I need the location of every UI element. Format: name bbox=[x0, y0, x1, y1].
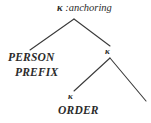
branch-mid-right bbox=[110, 58, 146, 101]
node-prefix: PREFIX bbox=[15, 67, 58, 79]
node-kappa-lower: κ bbox=[68, 92, 73, 101]
node-root-kappa-anchoring: κ :anchoring bbox=[57, 3, 112, 14]
node-person: PERSON bbox=[8, 52, 55, 64]
node-kappa-middle: κ bbox=[105, 47, 110, 56]
node-order: ORDER bbox=[58, 105, 99, 117]
branch-root-left bbox=[30, 19, 74, 50]
syntax-tree-figure: κ :anchoring PERSON PREFIX κ κ ORDER bbox=[0, 0, 151, 123]
branch-mid-left bbox=[74, 58, 110, 91]
branch-root-right bbox=[74, 19, 110, 46]
root-feature-anchoring: anchoring bbox=[69, 2, 112, 13]
